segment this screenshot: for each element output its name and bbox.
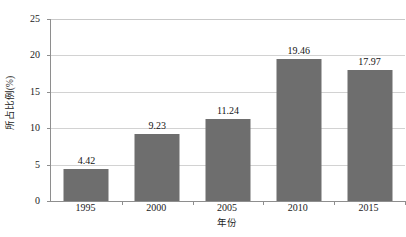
- x-axis-tick-label: 2015: [359, 203, 379, 213]
- bar-group: 4.42: [51, 19, 122, 201]
- plot-area: 4.429.2311.2419.4617.97: [50, 19, 405, 202]
- bar-series: 4.429.2311.2419.4617.97: [51, 19, 405, 201]
- y-axis-tick-label: 10: [30, 123, 40, 133]
- x-axis-tick-label: 2005: [217, 203, 237, 213]
- bar: [276, 59, 321, 201]
- y-axis-tick-mark: [47, 201, 51, 202]
- bar-value-label: 17.97: [358, 57, 381, 67]
- y-axis-tick-label: 0: [35, 196, 40, 206]
- bar-group: 19.46: [263, 19, 334, 201]
- y-axis-title-text: 所占比例(%): [2, 75, 16, 129]
- x-axis-title-text: 年份: [217, 219, 237, 229]
- y-axis-tick-label: 15: [30, 87, 40, 97]
- bar-value-label: 9.23: [148, 121, 166, 131]
- bar: [347, 70, 392, 201]
- y-axis-tick-labels: 0510152025: [18, 12, 44, 202]
- y-axis-tick-label: 20: [30, 50, 40, 60]
- x-axis-title: 年份: [50, 219, 404, 229]
- bar-value-label: 4.42: [78, 156, 96, 166]
- bar-value-label: 11.24: [217, 106, 239, 116]
- bar: [135, 134, 180, 201]
- bar-value-label: 19.46: [288, 46, 311, 56]
- y-axis-tick-label: 25: [30, 14, 40, 24]
- bar-group: 17.97: [334, 19, 405, 201]
- y-axis-tick-label: 5: [35, 160, 40, 170]
- y-axis-title: 所占比例(%): [0, 0, 18, 205]
- x-axis-tick-label: 2010: [288, 203, 308, 213]
- x-axis-tick-label: 1995: [75, 203, 95, 213]
- bar: [64, 169, 109, 201]
- bar: [205, 119, 250, 201]
- x-axis-tick-label: 2000: [146, 203, 166, 213]
- x-axis-tick-labels: 19952000200520102015: [50, 203, 404, 219]
- bar-group: 9.23: [122, 19, 193, 201]
- bar-group: 11.24: [193, 19, 264, 201]
